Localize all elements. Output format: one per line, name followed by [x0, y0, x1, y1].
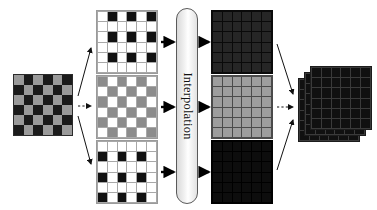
result-cell — [312, 99, 321, 108]
mosaic-cell — [14, 95, 24, 105]
output-cell — [252, 87, 261, 96]
result-cell — [351, 119, 360, 128]
output-cell — [242, 53, 251, 62]
result-layer — [310, 66, 372, 130]
result-cell — [322, 88, 331, 97]
plane-cell — [118, 173, 127, 182]
plane-cell — [147, 43, 156, 52]
mosaic-cell — [53, 105, 63, 115]
output-cell — [262, 63, 271, 72]
plane-cell — [147, 173, 156, 182]
plane-cell — [127, 53, 136, 62]
output-cell — [262, 142, 271, 151]
output-cell — [242, 118, 251, 127]
output-cell — [213, 152, 222, 161]
plane-cell — [98, 193, 107, 202]
output-cell — [262, 53, 271, 62]
plane-cell — [118, 108, 127, 117]
output-cell — [223, 162, 232, 171]
output-cell — [213, 22, 222, 31]
output-cell — [213, 162, 222, 171]
result-cell — [312, 68, 321, 77]
output-cell — [233, 173, 242, 182]
result-cell — [361, 78, 370, 87]
mosaic-cell — [62, 75, 72, 85]
plane-cell — [98, 63, 107, 72]
result-cell — [312, 109, 321, 118]
plane-cell — [118, 53, 127, 62]
plane-cell — [147, 183, 156, 192]
output-cell — [223, 118, 232, 127]
result-cell — [361, 119, 370, 128]
result-cell — [351, 109, 360, 118]
output-cell — [242, 142, 251, 151]
output-cell — [223, 32, 232, 41]
output-cell — [242, 32, 251, 41]
output-cell — [252, 63, 261, 72]
plane-cell — [147, 32, 156, 41]
plane-cell — [137, 32, 146, 41]
plane-cell — [147, 128, 156, 137]
output-cell — [213, 118, 222, 127]
output-cell — [223, 43, 232, 52]
plane-cell — [118, 87, 127, 96]
plane-cell — [108, 128, 117, 137]
output-cell — [262, 173, 271, 182]
mosaic-cell — [53, 95, 63, 105]
mosaic-cell — [43, 85, 53, 95]
plane-cell — [108, 22, 117, 31]
output-cell — [252, 32, 261, 41]
plane-cell — [137, 162, 146, 171]
plane-cell — [127, 118, 136, 127]
output-cell — [242, 152, 251, 161]
plane-cell — [127, 12, 136, 21]
output-cell — [223, 142, 232, 151]
output-cell — [242, 97, 251, 106]
plane-cell — [98, 183, 107, 192]
plane-cell — [108, 162, 117, 171]
plane-cell — [147, 142, 156, 151]
output-cell — [252, 162, 261, 171]
mosaic-cell — [43, 95, 53, 105]
output-cell — [223, 152, 232, 161]
output-cell — [223, 97, 232, 106]
result-cell — [361, 99, 370, 108]
plane-cell — [137, 77, 146, 86]
plane-cell — [108, 118, 117, 127]
plane-cell — [137, 193, 146, 202]
output-cell — [223, 12, 232, 21]
mosaic-cell — [24, 105, 34, 115]
output-cell — [262, 152, 271, 161]
output-cell — [223, 128, 232, 137]
plane-cell — [127, 87, 136, 96]
plane-cell — [108, 12, 117, 21]
plane-cell — [108, 32, 117, 41]
plane-cell — [108, 77, 117, 86]
plane-cell — [147, 152, 156, 161]
output-cell — [242, 193, 251, 202]
result-cell — [341, 88, 350, 97]
plane-cell — [147, 12, 156, 21]
output-cell — [252, 53, 261, 62]
plane-cell — [137, 142, 146, 151]
output-cell — [242, 63, 251, 72]
mosaic-cell — [24, 75, 34, 85]
output-cell — [252, 43, 261, 52]
output-cell — [242, 43, 251, 52]
mosaic-cell — [14, 75, 24, 85]
mosaic-cell — [62, 95, 72, 105]
result-cell — [351, 68, 360, 77]
output-cell — [242, 128, 251, 137]
plane-cell — [118, 63, 127, 72]
plane-cell — [98, 77, 107, 86]
plane-cell — [118, 142, 127, 151]
output-cell — [233, 193, 242, 202]
plane-cell — [137, 173, 146, 182]
result-cell — [322, 109, 331, 118]
plane-cell — [147, 162, 156, 171]
output-cell — [223, 63, 232, 72]
output-cell — [233, 12, 242, 21]
output-cell — [213, 87, 222, 96]
plane-cell — [118, 152, 127, 161]
plane-cell — [127, 97, 136, 106]
